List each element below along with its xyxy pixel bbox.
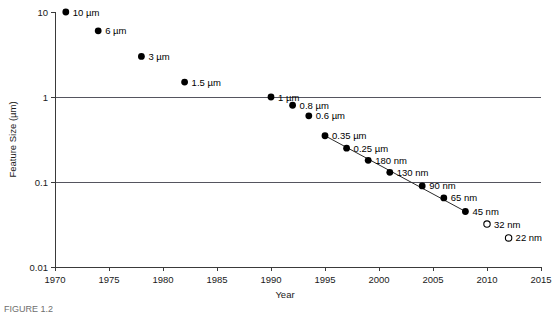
data-point-label: 22 nm [516,232,542,243]
data-point-label: 65 nm [451,192,477,203]
figure-caption: FIGURE 1.2 [4,304,53,313]
data-point-label: 130 nm [397,167,429,178]
data-point-label: 0.35 µm [332,130,367,141]
data-point-filled[interactable] [462,208,469,215]
data-point-filled[interactable] [305,112,312,119]
data-point-open[interactable] [505,235,511,241]
data-point-open[interactable] [484,221,490,227]
x-tick-label: 1985 [206,274,227,285]
data-point-label: 0.6 µm [316,110,345,121]
x-tick-label: 1975 [98,274,119,285]
data-point-label: 1 µm [278,92,299,103]
x-tick-label: 1995 [314,274,335,285]
y-axis-title: Feature Size (µm) [7,101,18,177]
figure-container: 1010.10.01197019751980198519901995200020… [0,0,557,313]
data-point-label: 90 nm [429,180,455,191]
x-tick-label: 2000 [368,274,389,285]
data-point-label: 180 nm [375,155,407,166]
x-tick-label: 2010 [476,274,497,285]
data-point-filled[interactable] [138,53,145,60]
x-tick-label: 1970 [44,274,65,285]
data-point-label: 32 nm [494,219,520,230]
x-tick-label: 2005 [422,274,443,285]
y-tick-label: 0.01 [30,262,49,273]
data-point-filled[interactable] [289,102,296,109]
data-point-filled[interactable] [95,27,102,34]
data-point-filled[interactable] [419,182,426,189]
data-point-filled[interactable] [268,94,275,101]
data-point-filled[interactable] [62,9,69,16]
data-point-label: 10 µm [73,7,100,18]
x-tick-label: 1990 [260,274,281,285]
data-point-label: 6 µm [105,25,126,36]
y-tick-label: 0.1 [35,177,48,188]
data-point-filled[interactable] [181,79,188,86]
data-point-label: 0.8 µm [300,100,329,111]
feature-size-chart: 1010.10.01197019751980198519901995200020… [0,0,557,313]
data-point-filled[interactable] [322,132,329,139]
y-tick-label: 1 [43,92,48,103]
x-axis-title: Year [275,289,294,300]
data-point-filled[interactable] [365,157,372,164]
data-point-filled[interactable] [386,169,393,176]
data-point-label: 1.5 µm [192,77,221,88]
y-tick-label: 10 [37,7,48,18]
data-point-filled[interactable] [343,145,350,152]
data-point-label: 0.25 µm [354,143,389,154]
x-tick-label: 1980 [152,274,173,285]
data-point-filled[interactable] [440,195,447,202]
x-tick-label: 2015 [530,274,551,285]
data-point-label: 3 µm [148,51,169,62]
data-point-label: 45 nm [472,206,498,217]
